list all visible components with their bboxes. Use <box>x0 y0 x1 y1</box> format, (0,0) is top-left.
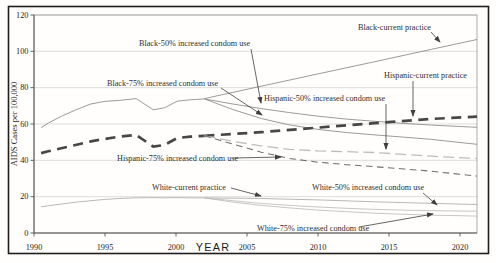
annotation-arrow-black_current <box>431 32 440 42</box>
annotation-arrow-hispanic_75 <box>233 157 281 158</box>
x-axis-title: YEAR <box>196 241 231 253</box>
y-tick-label: 120 <box>16 11 28 20</box>
series-line-hispanic_50 <box>204 136 477 159</box>
x-tick-label: 1995 <box>97 243 114 252</box>
annotation-label-white_current: White-current practice <box>152 183 226 192</box>
y-tick-label: 100 <box>16 47 28 56</box>
series-annotations: Black-current practiceBlack-50% increase… <box>107 23 467 233</box>
series-line-hispanic_current <box>204 117 477 136</box>
y-tick-label: 80 <box>20 83 28 92</box>
series-line-white_hist <box>41 198 204 207</box>
chart-figure: 020406080100120 199019952000200520102015… <box>0 0 496 263</box>
x-tick-label: 2020 <box>452 243 469 252</box>
annotation-label-black_current: Black-current practice <box>358 23 431 32</box>
annotation-arrow-black_75 <box>221 88 262 115</box>
annotation-label-black_50: Black-50% increased condom use <box>139 39 251 48</box>
x-axis-ticks: 1990199520002005201020152020 <box>26 233 469 252</box>
series-line-black_hist <box>41 99 204 128</box>
series-line-hispanic_hist <box>41 135 204 153</box>
annotation-arrow-white_75 <box>359 214 433 227</box>
annotation-label-hispanic_current: Hispanic-current practice <box>384 71 467 80</box>
series-line-black_current <box>204 40 477 99</box>
annotation-label-hispanic_75: Hispanic-75% increased condom use <box>117 154 239 163</box>
annotation-label-white_75: White-75% increased condom use <box>257 224 369 233</box>
x-tick-label: 2005 <box>239 243 256 252</box>
x-tick-label: 2010 <box>310 243 327 252</box>
chart-svg: 020406080100120 199019952000200520102015… <box>0 0 496 263</box>
y-tick-label: 20 <box>20 192 28 201</box>
annotation-label-hispanic_50: Hispanic-50% increased condom use <box>264 94 386 103</box>
annotation-arrow-white_current <box>231 188 261 196</box>
y-tick-label: 60 <box>20 120 28 129</box>
annotation-label-black_75: Black-75% increased condom use <box>107 79 219 88</box>
x-tick-label: 1990 <box>26 243 43 252</box>
y-tick-label: 0 <box>24 229 28 238</box>
x-tick-label: 2015 <box>381 243 398 252</box>
y-axis-title: AIDS Cases per 100,000 <box>9 82 19 167</box>
annotation-label-white_50: White-50% increased condom use <box>312 183 424 192</box>
x-tick-label: 2000 <box>168 243 185 252</box>
y-tick-label: 40 <box>20 156 28 165</box>
annotation-arrow-black_50 <box>251 49 261 103</box>
